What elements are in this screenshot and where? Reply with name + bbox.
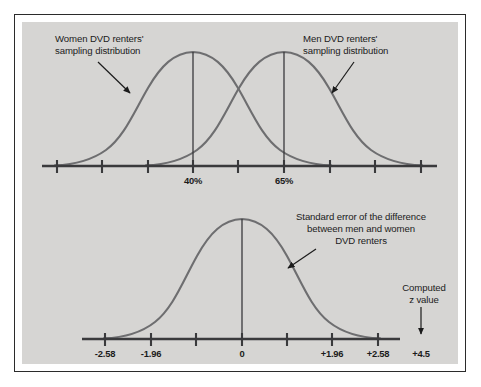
- bottom-tick-label-zero: 0: [239, 348, 244, 359]
- bottom-tick-label-plus-45: +4.5: [412, 348, 430, 359]
- top-tick-label-40: 40%: [184, 175, 202, 186]
- bottom-tick-label-minus-196: -1.96: [141, 348, 161, 359]
- women-distribution-annotation: Women DVD renters' sampling distribution: [55, 33, 143, 57]
- computed-z-value-annotation: Computed z value: [396, 282, 452, 306]
- bottom-tick-label-plus-196: +1.96: [321, 348, 344, 359]
- figure-inner-panel: [22, 22, 458, 364]
- bottom-tick-label-minus-258: -2.58: [95, 348, 115, 359]
- top-tick-label-65: 65%: [275, 175, 293, 186]
- statistics-figure: Women DVD renters' sampling distribution…: [0, 0, 481, 387]
- standard-error-annotation: Standard error of the difference between…: [291, 211, 431, 248]
- men-distribution-annotation: Men DVD renters' sampling distribution: [303, 33, 388, 57]
- bottom-tick-label-plus-258: +2.58: [367, 348, 390, 359]
